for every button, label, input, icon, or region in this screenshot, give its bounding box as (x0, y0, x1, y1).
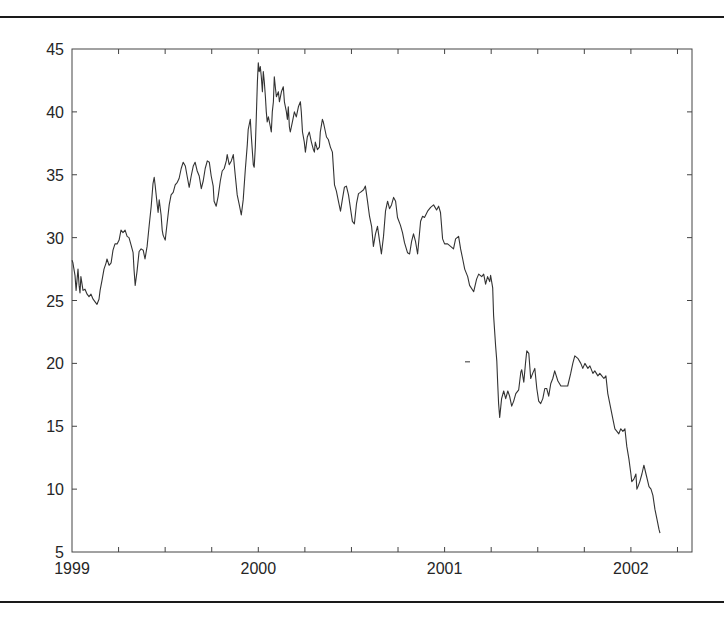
line-chart: 51015202530354045 1999200020012002 (0, 0, 724, 620)
stray-mark (465, 361, 470, 363)
y-tick-label: 40 (46, 104, 64, 121)
y-tick-label: 5 (55, 544, 64, 561)
y-tick-label: 10 (46, 481, 64, 498)
y-tick-label: 35 (46, 167, 64, 184)
y-axis-tick-labels: 51015202530354045 (46, 41, 64, 561)
y-tick-label: 15 (46, 418, 64, 435)
y-tick-label: 45 (46, 41, 64, 58)
y-tick-label: 20 (46, 355, 64, 372)
plot-area (72, 49, 692, 552)
x-tick-label: 2000 (241, 560, 277, 577)
x-tick-label: 2001 (427, 560, 463, 577)
y-tick-label: 30 (46, 230, 64, 247)
y-tick-label: 25 (46, 293, 64, 310)
x-axis-tick-labels: 1999200020012002 (54, 560, 649, 577)
x-tick-label: 2002 (613, 560, 649, 577)
x-tick-label: 1999 (54, 560, 90, 577)
